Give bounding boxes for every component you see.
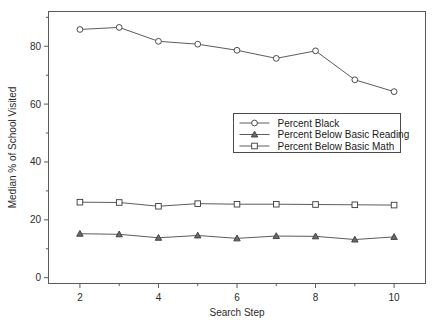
data-point (156, 38, 162, 44)
x-tick-label: 6 (234, 292, 240, 303)
y-tick-label: 0 (35, 272, 41, 283)
data-point (116, 25, 122, 31)
data-point (352, 77, 358, 83)
legend-marker (252, 143, 258, 149)
data-point (195, 41, 201, 47)
chart-figure: 020406080246810Search StepMedian % of Sc… (0, 0, 433, 325)
x-tick-label: 4 (156, 292, 162, 303)
data-point (195, 201, 201, 207)
y-axis-title: Median % of School Visited (7, 87, 18, 209)
data-point (234, 47, 240, 53)
data-point (116, 200, 122, 206)
data-point (273, 55, 279, 61)
data-point (234, 201, 240, 207)
legend-label-2: Percent Below Basic Math (278, 141, 395, 152)
series-line-0 (80, 27, 394, 91)
legend-label-1: Percent Below Basic Reading (278, 129, 410, 140)
data-point (77, 199, 83, 205)
data-point (391, 234, 397, 240)
data-point (195, 232, 201, 238)
data-point (77, 27, 83, 33)
data-point (352, 202, 358, 208)
data-point (273, 201, 279, 207)
x-tick-label: 10 (389, 292, 401, 303)
y-tick-label: 60 (30, 99, 42, 110)
y-tick-label: 80 (30, 41, 42, 52)
data-point (313, 202, 319, 208)
data-point (391, 202, 397, 208)
y-tick-label: 40 (30, 156, 42, 167)
data-point (391, 89, 397, 95)
legend-marker (252, 120, 258, 126)
legend-label-0: Percent Black (278, 118, 341, 129)
x-axis-title: Search Step (209, 307, 264, 318)
x-tick-label: 2 (77, 292, 83, 303)
data-point (313, 48, 319, 54)
line-chart: 020406080246810Search StepMedian % of Sc… (0, 0, 433, 325)
x-tick-label: 8 (313, 292, 319, 303)
y-tick-label: 20 (30, 214, 42, 225)
data-point (156, 203, 162, 209)
